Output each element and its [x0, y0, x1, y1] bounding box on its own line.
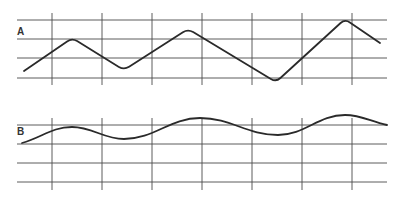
panel-b-waveform: [22, 115, 387, 143]
waveform-diagram: A B: [0, 0, 402, 201]
panel-b: B: [17, 115, 387, 190]
panel-a-grid: [17, 13, 387, 85]
panel-a-label: A: [17, 26, 24, 37]
panel-b-label: B: [17, 126, 24, 137]
panel-a: A: [17, 13, 387, 85]
panel-b-grid: [17, 118, 387, 190]
